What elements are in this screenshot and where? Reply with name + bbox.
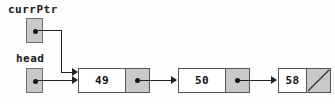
node-2-to-node-3-arrowhead-icon — [271, 76, 277, 84]
node-3-next-cell-null — [306, 69, 330, 92]
node-1-value: 49 — [79, 69, 125, 92]
null-pointer-slash-icon — [307, 69, 330, 92]
node-1-to-node-2-arrowhead-icon — [171, 76, 177, 84]
currptr-line-horizontal-1 — [35, 30, 62, 31]
currptr-line-vertical — [61, 30, 62, 72]
linked-list-diagram: currPtr head 49 50 58 — [0, 0, 335, 104]
node-3-value: 58 — [279, 69, 306, 92]
head-label: head — [16, 52, 45, 65]
node-2-value: 50 — [179, 69, 225, 92]
list-node-3: 58 — [278, 68, 331, 93]
currptr-label: currPtr — [8, 3, 58, 16]
head-line-horizontal — [35, 80, 77, 81]
